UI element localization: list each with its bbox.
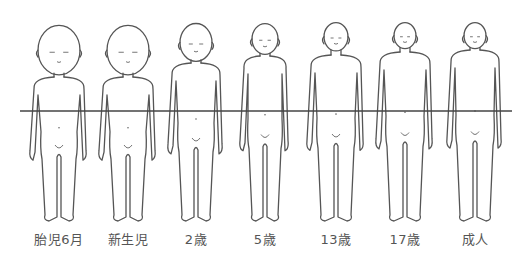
head-outline xyxy=(107,25,149,75)
head-outline xyxy=(394,23,416,49)
figures-canvas xyxy=(0,0,525,261)
human-figure-4 xyxy=(307,23,363,221)
human-figure-0 xyxy=(30,25,86,221)
body-proportion-diagram: 胎児6月 新生児 2歳 5歳 13歳 17歳 成人 xyxy=(0,0,525,261)
human-figure-2 xyxy=(168,24,222,221)
figure-label-2-years: 2歳 xyxy=(185,229,207,248)
human-figure-1 xyxy=(99,25,155,221)
head-outline xyxy=(252,24,278,55)
head-outline xyxy=(180,24,212,62)
figure-label-fetus-6-months: 胎児6月 xyxy=(34,229,83,248)
figure-label-adult: 成人 xyxy=(462,229,489,248)
body-outline xyxy=(376,52,432,221)
figure-label-17-years: 17歳 xyxy=(389,229,420,248)
human-figure-6 xyxy=(447,23,501,221)
human-figure-5 xyxy=(376,23,432,221)
body-outline xyxy=(307,55,363,221)
head-outline xyxy=(464,23,486,49)
body-outline xyxy=(447,50,501,221)
figure-label-newborn: 新生児 xyxy=(108,229,149,248)
body-outline xyxy=(240,56,288,221)
human-figure-3 xyxy=(240,24,288,221)
figure-label-5-years: 5歳 xyxy=(254,229,276,248)
figure-label-13-years: 13歳 xyxy=(320,229,351,248)
body-outline xyxy=(30,77,86,221)
head-outline xyxy=(38,25,80,75)
body-outline xyxy=(99,77,155,221)
head-outline xyxy=(324,23,348,51)
body-outline xyxy=(168,63,222,221)
